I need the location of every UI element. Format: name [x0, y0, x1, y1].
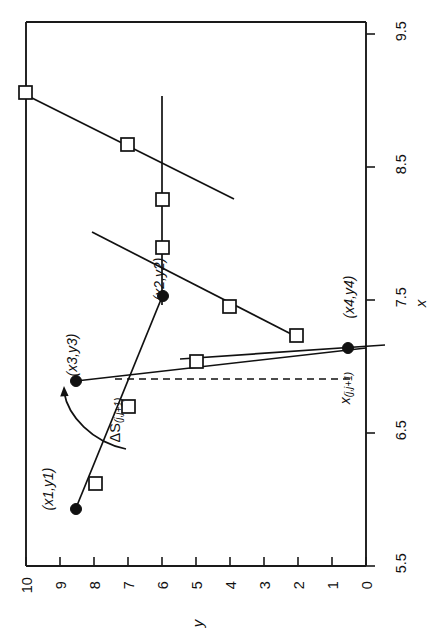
annotation-x3y3: (x3,y3): [65, 324, 79, 386]
y-tick-label-3: 3: [258, 575, 273, 595]
y-tick-label-9: 9: [54, 575, 69, 595]
marker-square: [290, 329, 303, 342]
y-tick-label-1: 1: [326, 575, 341, 595]
y-axis-ticks: [26, 557, 366, 566]
marker-square: [156, 193, 169, 206]
marker-square: [223, 300, 236, 313]
marker-square: [19, 86, 32, 99]
y-tick-label-10: 10: [20, 575, 35, 595]
annotation-x4y4: (x4,y4): [342, 266, 356, 328]
annotation-x2y2: (x2,y2): [152, 248, 166, 310]
marker-square: [121, 138, 134, 151]
plot-canvas: [0, 0, 434, 639]
point-x4y4: [343, 343, 354, 354]
y-tick-label-8: 8: [88, 575, 103, 595]
x-tick-label-6p5: 6.5: [394, 409, 409, 451]
marker-square: [89, 477, 102, 490]
x-axis-title: x: [413, 294, 428, 314]
x-tick-label-9p5: 9.5: [394, 10, 409, 52]
delta-s-prefix: ΔS: [107, 423, 123, 442]
annotation-delta-s: ΔS(j,j+1): [108, 382, 124, 458]
middle-fit-line: [92, 232, 295, 336]
x-jj1-subscript: (j,j+1): [343, 372, 354, 397]
figure-container: 10 9 8 7 6 5 4 3 2 1 0 y 9.5 8.5 7.5 6.5…: [0, 0, 434, 639]
x-tick-label-8p5: 8.5: [394, 143, 409, 185]
y-tick-label-5: 5: [190, 575, 205, 595]
x-tick-label-5p5: 5.5: [394, 542, 409, 584]
marker-square: [190, 355, 203, 368]
y-tick-label-0: 0: [360, 575, 375, 595]
y-tick-label-6: 6: [156, 575, 171, 595]
delta-s-subscript: (j,j+1): [113, 398, 124, 423]
annotation-x1y1: (x1,y1): [41, 458, 55, 520]
y-axis-title: y: [190, 612, 205, 636]
y-tick-label-2: 2: [292, 575, 307, 595]
y-tick-label-4: 4: [224, 575, 239, 595]
delta-s-arrowhead: [60, 386, 68, 397]
point-x1y1: [71, 504, 82, 515]
x-axis-ticks: [366, 34, 375, 566]
annotation-x-jj1: x(j,j+1): [338, 357, 354, 419]
x-tick-label-7p5: 7.5: [394, 276, 409, 318]
y-tick-label-7: 7: [122, 575, 137, 595]
x-jj1-main: x: [337, 397, 353, 404]
segment-p3-p4: [76, 348, 366, 381]
